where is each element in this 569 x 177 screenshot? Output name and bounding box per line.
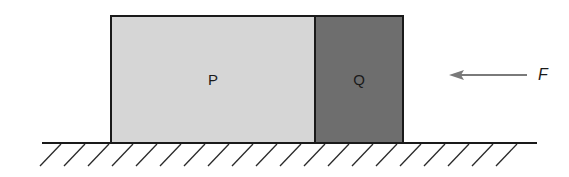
force-label: F — [538, 66, 548, 84]
force-arrow — [449, 70, 527, 80]
block-p-label: P — [208, 71, 218, 88]
ground-hatching — [40, 144, 517, 166]
block-q: Q — [314, 15, 404, 144]
block-q-label: Q — [353, 71, 365, 88]
block-p: P — [110, 15, 316, 144]
